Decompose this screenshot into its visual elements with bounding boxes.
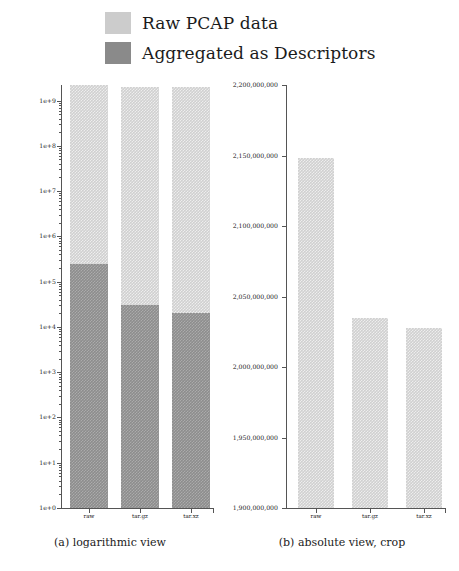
y-axis-tick-label: 1e+5: [18, 279, 56, 285]
plot-area-absolute: 1,900,000,0001,950,000,0002,000,000,0002…: [225, 0, 459, 571]
y-axis-minor-tick: [59, 374, 62, 375]
y-axis-minor-tick: [59, 238, 62, 239]
y-axis-tick-label: 2,000,000,000: [225, 364, 278, 370]
y-axis-minor-tick: [59, 284, 62, 285]
y-axis-minor-tick: [59, 341, 62, 342]
y-axis-tick-label: 1e+2: [18, 414, 56, 420]
y-axis-minor-tick: [59, 132, 62, 133]
x-axis-tick-label: tar.gz: [113, 514, 167, 520]
y-axis-minor-tick: [59, 292, 62, 293]
y-axis-minor-tick: [59, 148, 62, 149]
y-axis-tick-label: 1e+7: [18, 188, 56, 194]
y-axis-minor-tick: [59, 431, 62, 432]
y-axis-minor-tick: [59, 467, 62, 468]
bar-segment-aggregated: [172, 313, 210, 508]
x-axis-end-tick: [213, 509, 214, 513]
y-axis-minor-tick: [59, 201, 62, 202]
y-axis-tick-label: 1,950,000,000: [225, 435, 278, 441]
y-axis-major-tick: [57, 463, 62, 464]
y-axis-minor-tick: [59, 305, 62, 306]
y-axis-minor-tick: [59, 268, 62, 269]
y-axis-major-tick: [282, 367, 287, 368]
bar-segment-aggregated: [121, 305, 159, 508]
bar-raw: [298, 158, 334, 508]
y-axis-minor-tick: [59, 205, 62, 206]
y-axis-tick-label: 1e+1: [18, 460, 56, 466]
y-axis-major-tick: [57, 101, 62, 102]
y-axis-minor-tick: [59, 345, 62, 346]
y-axis-major-tick: [57, 191, 62, 192]
caption-panel-a: (a) logarithmic view: [10, 536, 210, 549]
y-axis-minor-tick: [59, 223, 62, 224]
y-axis-major-tick: [282, 226, 287, 227]
plot-area-logarithmic: 1e+01e+11e+21e+31e+41e+51e+61e+71e+81e+9…: [0, 0, 225, 571]
y-axis-minor-tick: [59, 427, 62, 428]
x-axis-tick-label: raw: [288, 514, 344, 520]
y-axis-minor-tick: [59, 198, 62, 199]
bar-segment-raw: [121, 87, 159, 305]
x-axis-end-tick: [445, 509, 446, 513]
y-axis-minor-tick: [59, 300, 62, 301]
y-axis-minor-tick: [59, 111, 62, 112]
y-axis-minor-tick: [59, 103, 62, 104]
y-axis-minor-tick: [59, 250, 62, 251]
y-axis-minor-tick: [59, 241, 62, 242]
y-axis-minor-tick: [59, 481, 62, 482]
y-axis-tick-label: 1e+3: [18, 369, 56, 375]
y-axis-minor-tick: [59, 209, 62, 210]
y-axis-minor-tick: [59, 396, 62, 397]
y-axis-minor-tick: [59, 359, 62, 360]
y-axis-minor-tick: [59, 243, 62, 244]
y-axis-minor-tick: [59, 476, 62, 477]
y-axis-minor-tick: [59, 441, 62, 442]
y-axis-minor-tick: [59, 420, 62, 421]
y-axis-minor-tick: [59, 169, 62, 170]
y-axis-major-tick: [282, 438, 287, 439]
y-axis-tick-label: 1e+4: [18, 324, 56, 330]
y-axis-minor-tick: [59, 124, 62, 125]
y-axis-minor-tick: [59, 449, 62, 450]
panel-absolute-view: 1,900,000,0001,950,000,0002,000,000,0002…: [225, 0, 459, 571]
y-axis-tick-label: 1e+6: [18, 233, 56, 239]
y-axis-minor-tick: [59, 108, 62, 109]
y-axis-minor-tick: [59, 465, 62, 466]
y-axis-minor-tick: [59, 351, 62, 352]
y-axis-minor-tick: [59, 260, 62, 261]
figure-container: Raw PCAP data Aggregated as Descriptors …: [0, 0, 459, 571]
y-axis-major-tick: [57, 372, 62, 373]
y-axis-tick-label: 1e+9: [18, 98, 56, 104]
y-axis-minor-tick: [59, 390, 62, 391]
y-axis-minor-tick: [59, 193, 62, 194]
y-axis-minor-tick: [59, 424, 62, 425]
y-axis-minor-tick: [59, 486, 62, 487]
y-axis-minor-tick: [59, 329, 62, 330]
y-axis-minor-tick: [59, 153, 62, 154]
y-axis-minor-tick: [59, 435, 62, 436]
y-axis-minor-tick: [59, 195, 62, 196]
y-axis-major-tick: [57, 282, 62, 283]
y-axis-minor-tick: [59, 386, 62, 387]
y-axis-minor-tick: [59, 494, 62, 495]
y-axis-major-tick: [57, 508, 62, 509]
bar-raw: [352, 318, 388, 508]
y-axis-major-tick: [282, 85, 287, 86]
bar-segment-aggregated: [70, 264, 108, 508]
y-axis-major-tick: [57, 417, 62, 418]
y-axis-tick-label: 2,200,000,000: [225, 82, 278, 88]
y-axis-minor-tick: [59, 150, 62, 151]
y-axis-minor-tick: [59, 382, 62, 383]
y-axis-minor-tick: [59, 114, 62, 115]
y-axis-tick-label: 2,100,000,000: [225, 223, 278, 229]
y-axis-major-tick: [57, 146, 62, 147]
y-axis-tick-label: 1e+8: [18, 143, 56, 149]
y-axis-tick-label: 1e+0: [18, 505, 56, 511]
bar-segment-raw: [70, 85, 108, 264]
x-axis-tick-label: raw: [62, 514, 116, 520]
y-axis-minor-tick: [59, 379, 62, 380]
y-axis-minor-tick: [59, 331, 62, 332]
y-axis-minor-tick: [59, 215, 62, 216]
y-axis-minor-tick: [59, 105, 62, 106]
y-axis-major-tick: [57, 236, 62, 237]
y-axis-tick-label: 1,900,000,000: [225, 505, 278, 511]
y-axis-major-tick: [57, 327, 62, 328]
